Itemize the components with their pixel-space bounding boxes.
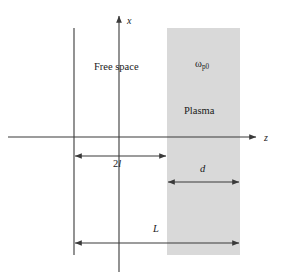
x-axis-label: x xyxy=(127,16,131,26)
plasma-slab-diagram: x z Free space Plasma ωp0 2l d L xyxy=(0,0,285,277)
dimension-label-d: d xyxy=(200,164,205,175)
dimension-label-L: L xyxy=(153,224,159,235)
plasma-frequency-label: ωp0 xyxy=(195,59,209,70)
z-axis-label: z xyxy=(264,133,268,143)
plasma-label: Plasma xyxy=(184,106,214,117)
omega-subscript: p0 xyxy=(202,63,209,71)
omega-symbol: ω xyxy=(195,58,202,69)
dimension-label-two-l: 2l xyxy=(113,159,121,170)
free-space-label: Free space xyxy=(94,62,139,73)
dimension-two-l-symbol: l xyxy=(118,158,121,169)
diagram-canvas xyxy=(0,0,285,277)
